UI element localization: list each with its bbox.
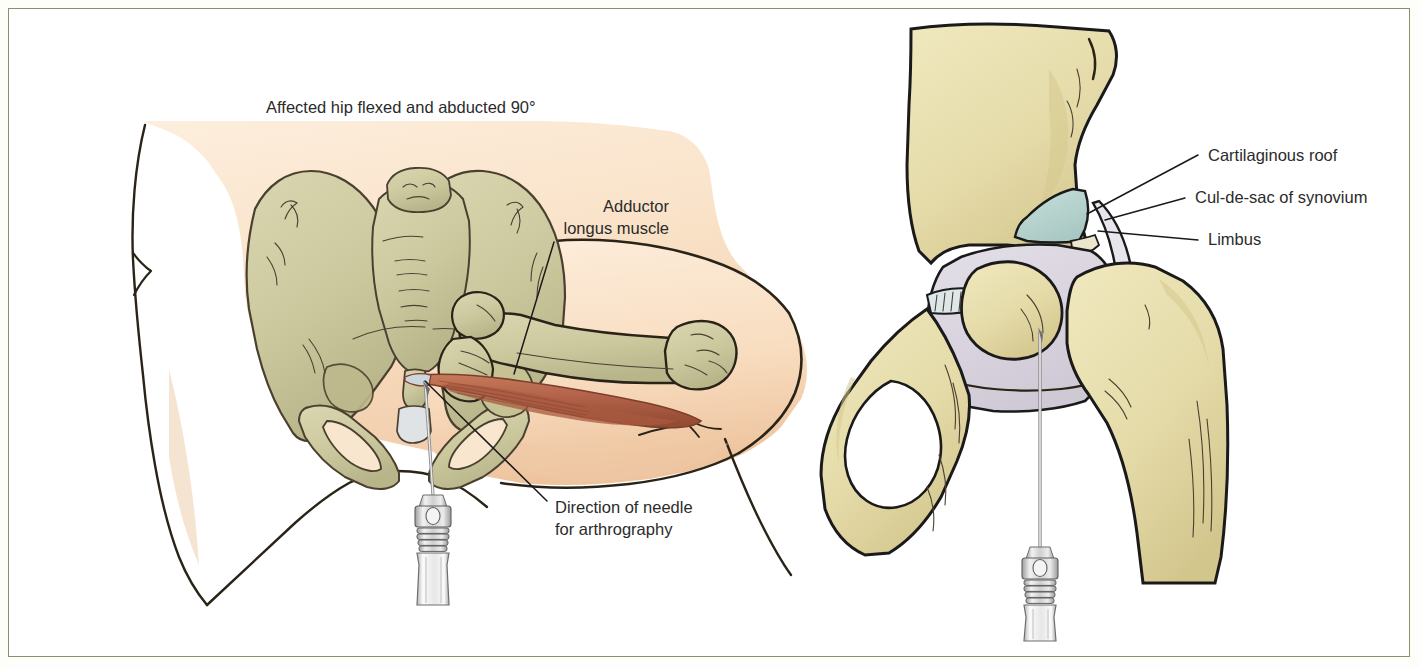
needle-direction-label-line2: for arthrography (555, 520, 673, 538)
figure-frame: Affected hip flexed and abducted 90° Add… (8, 8, 1410, 657)
limbus-label: Limbus (1208, 230, 1261, 248)
label-cul-de-sac: Cul-de-sac of synovium (1105, 188, 1367, 220)
pubis-ischium (821, 309, 970, 555)
left-panel: Affected hip flexed and abducted 90° Add… (133, 98, 808, 605)
left-panel-title: Affected hip flexed and abducted 90° (266, 98, 536, 116)
leader-line-cul-de-sac (1105, 198, 1185, 220)
cartilaginous-roof-label: Cartilaginous roof (1208, 146, 1338, 164)
needle-direction-label-line1: Direction of needle (555, 498, 693, 516)
right-panel: Cartilaginous roof Cul-de-sac of synoviu… (821, 24, 1367, 641)
leader-line-cartilaginous-roof (1087, 155, 1198, 214)
cul-de-sac-label: Cul-de-sac of synovium (1195, 188, 1367, 206)
femoral-head (962, 262, 1062, 360)
adductor-label-line1: Adductor (603, 197, 670, 215)
adductor-label-line2: longus muscle (564, 219, 669, 237)
illustration-canvas: Affected hip flexed and abducted 90° Add… (9, 9, 1411, 658)
femur-right (1067, 263, 1228, 583)
